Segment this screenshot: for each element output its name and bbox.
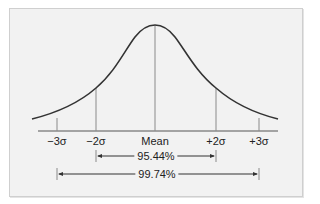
tick-label-mean: Mean <box>141 135 169 147</box>
tick-label-minus-3-sigma: −3σ <box>47 135 66 147</box>
arrow-right-icon <box>253 172 258 176</box>
range-2-sigma-label: 95.44% <box>134 150 177 162</box>
arrow-right-icon <box>210 154 215 158</box>
tick-label-plus-3-sigma: +3σ <box>249 135 268 147</box>
arrow-left-icon <box>97 154 102 158</box>
tick-label-plus-2-sigma: +2σ <box>206 135 225 147</box>
tick-label-minus-2-sigma: −2σ <box>86 135 105 147</box>
range-3-sigma-label: 99.74% <box>135 168 178 180</box>
arrow-left-icon <box>58 172 63 176</box>
